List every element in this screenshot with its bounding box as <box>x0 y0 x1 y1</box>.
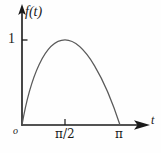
y-axis-function-label: f(t) <box>25 5 42 19</box>
sine-curve <box>22 40 120 125</box>
y-tick-label-one: 1 <box>8 32 15 46</box>
origin-label: o <box>13 126 18 136</box>
x-tick-label-pi-half: π/2 <box>55 128 75 140</box>
function-graph-figure: f(t) 1 o π/2 π t <box>0 0 161 153</box>
plot-canvas <box>0 0 161 153</box>
x-tick-label-pi: π <box>115 128 123 140</box>
x-axis-variable-label: t <box>151 114 154 126</box>
